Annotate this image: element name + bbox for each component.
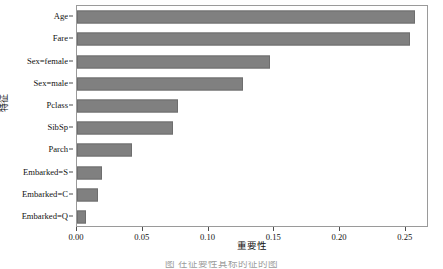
y-axis-tick-labels: AgeFareSex=femaleSex=malePclassSibSpParc… [0, 5, 73, 227]
y-axis-tick-mark [69, 193, 73, 194]
x-axis-title: 重要性 [76, 241, 428, 252]
y-axis-tick-mark [69, 82, 73, 83]
y-axis-tick-mark [69, 215, 73, 216]
bar [77, 33, 410, 46]
y-axis-tick-label: Embarked=Q [22, 211, 68, 221]
y-axis-tick-mark [69, 149, 73, 150]
bar [77, 122, 173, 135]
y-axis-tick-label: Age [54, 11, 68, 21]
y-axis-tick-label: SibSp [47, 122, 68, 132]
y-axis-tick-label: Sex=male [34, 78, 68, 88]
y-axis-tick-mark [69, 38, 73, 39]
y-axis-tick-mark [69, 60, 73, 61]
plot-area [76, 5, 428, 227]
bar [77, 188, 98, 201]
bar [77, 77, 243, 90]
y-axis-tick-label: Pclass [47, 100, 68, 110]
y-axis-tick-mark [69, 127, 73, 128]
x-axis-tick-mark [208, 227, 209, 231]
x-axis-tick-mark [339, 227, 340, 231]
x-axis-tick-mark [273, 227, 274, 231]
y-axis-tick-mark [69, 104, 73, 105]
y-axis-tick-mark [69, 171, 73, 172]
y-axis-tick-mark [69, 16, 73, 17]
feature-importance-bar-chart: 特征 AgeFareSex=femaleSex=malePclassSibSpP… [0, 0, 443, 269]
figure-caption-text: 图 在征要性其标的征的图 [0, 261, 443, 269]
x-axis-tick-mark [76, 227, 77, 231]
bar [77, 210, 86, 223]
x-axis-tick-mark [142, 227, 143, 231]
bar [77, 11, 415, 24]
y-axis-tick-label: Parch [48, 144, 68, 154]
y-axis-tick-label: Embarked=S [23, 167, 68, 177]
y-axis-tick-label: Fare [53, 33, 68, 43]
y-axis-tick-label: Embarked=C [22, 189, 68, 199]
bar [77, 144, 132, 157]
y-axis-tick-label: Sex=female [27, 56, 68, 66]
bar [77, 99, 178, 112]
x-axis-tick-mark [405, 227, 406, 231]
bar [77, 166, 102, 179]
figure-caption-clipped: 图 在征要性其标的征的图 [0, 261, 443, 269]
bar [77, 55, 270, 68]
